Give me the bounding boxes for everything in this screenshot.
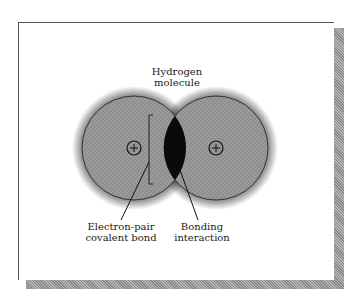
electron-pair-label: Electron-pair covalent bond xyxy=(85,221,156,243)
title-line-2: molecule xyxy=(152,77,202,88)
electron-pair-line-2: covalent bond xyxy=(85,232,156,243)
bonding-line-2: interaction xyxy=(174,232,230,243)
title-line-1: Hydrogen xyxy=(152,66,202,77)
bonding-interaction-label: Bonding interaction xyxy=(174,221,230,243)
hydrogen-molecule-diagram xyxy=(0,0,357,306)
bonding-line-1: Bonding xyxy=(174,221,230,232)
title-label: Hydrogen molecule xyxy=(152,66,202,88)
electron-pair-line-1: Electron-pair xyxy=(85,221,156,232)
